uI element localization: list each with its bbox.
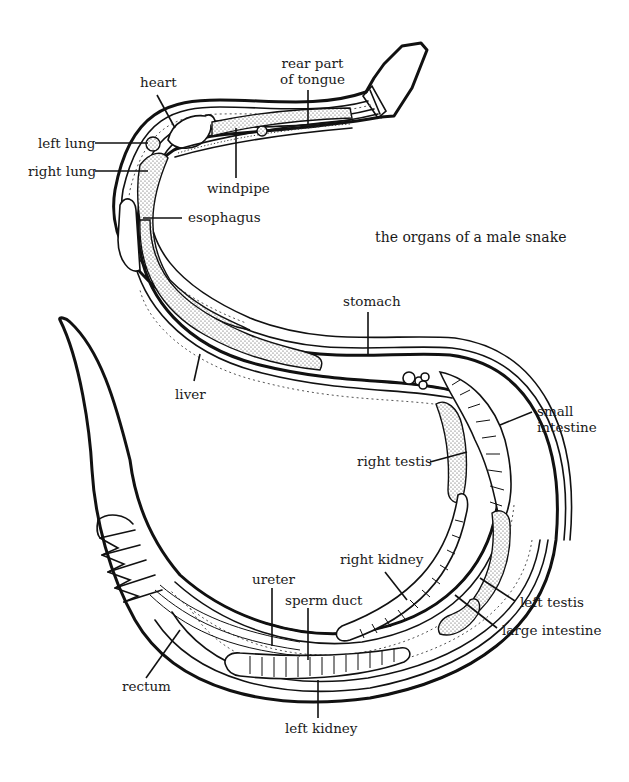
label-windpipe: windpipe bbox=[207, 180, 270, 196]
diagram-title: the organs of a male snake bbox=[375, 229, 566, 245]
label-rear-part-of-tongue: rear part of tongue bbox=[280, 55, 345, 87]
label-rectum: rectum bbox=[122, 678, 171, 694]
heart-organ bbox=[168, 116, 211, 149]
label-left-testis: left testis bbox=[520, 594, 584, 610]
label-small-intestine: small intestine bbox=[537, 403, 597, 435]
label-esophagus: esophagus bbox=[188, 209, 261, 225]
label-right-kidney: right kidney bbox=[340, 551, 423, 567]
label-large-intestine: large intestine bbox=[502, 622, 602, 638]
snake-anatomy-drawing bbox=[0, 0, 629, 782]
label-small-intestine-line1: small bbox=[537, 403, 597, 419]
label-right-testis: right testis bbox=[357, 453, 432, 469]
label-rear-tongue-line1: rear part bbox=[280, 55, 345, 71]
label-rear-tongue-line2: of tongue bbox=[280, 71, 345, 87]
large-intestine-organ bbox=[438, 599, 479, 635]
left-lung-organ bbox=[146, 137, 160, 151]
liver-organ bbox=[140, 220, 322, 370]
right-testis-organ bbox=[436, 402, 467, 502]
label-small-intestine-line2: intestine bbox=[537, 419, 597, 435]
label-liver: liver bbox=[175, 386, 206, 402]
tail-scales bbox=[97, 515, 162, 602]
label-left-kidney: left kidney bbox=[285, 720, 357, 736]
head bbox=[363, 43, 427, 118]
label-left-lung: left lung bbox=[38, 135, 95, 151]
label-heart: heart bbox=[140, 74, 177, 90]
label-stomach: stomach bbox=[343, 293, 401, 309]
label-ureter: ureter bbox=[252, 571, 295, 587]
gallbladder-cluster bbox=[403, 372, 429, 389]
label-sperm-duct: sperm duct bbox=[285, 592, 362, 608]
label-right-lung: right lung bbox=[28, 163, 96, 179]
